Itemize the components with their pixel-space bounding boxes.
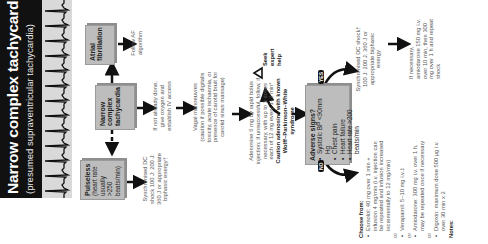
vagal-detail: (caution if possible digitalis toxicity,… xyxy=(199,72,225,143)
drug-option-amiodarone: Amiodarone: 300 mg i.v. over 1 h, may be… xyxy=(412,138,426,231)
adverse-sign-item: Systolic BP <90mm Hg xyxy=(316,89,331,154)
flowchart-page: Narrow complex tachycardia (presumed sup… xyxy=(0,0,488,244)
adverse-signs-title: Adverse signs? xyxy=(309,109,316,161)
pulseless-box: Pulseless (heart rate usually >250 beats… xyxy=(80,160,125,200)
oxygen-iv-note: If not already done, give oxygen and est… xyxy=(152,78,172,134)
choose-from-title: Choose from: xyxy=(358,200,364,238)
pulseless-shock-note: Synchronised DC shock 100 J: 200 J: 360 … xyxy=(142,150,169,208)
adenosine-text: Adenosine 6 mg by rapid bolus injection;… xyxy=(248,78,274,164)
atrial-fibrillation-box: Atrial fibrillation xyxy=(85,25,115,65)
seek-help-note: Seek expert help xyxy=(262,36,282,66)
or-separator: or xyxy=(406,138,413,238)
vagal-title: Vagal manoeuvres xyxy=(192,83,198,131)
drug-option-esmolol: Esmolol: 40 mg over 1 min + infusion 4 m… xyxy=(365,138,392,231)
drug-option-digoxin: Digoxin: maximum dose 500 µg i.v. over 3… xyxy=(433,138,447,231)
no-badge: NO xyxy=(318,161,324,173)
adenosine-note: Adenosine 6 mg by rapid bolus injection;… xyxy=(248,76,296,166)
adverse-signs-box: Adverse signs? Systolic BP <90mm Hg Ches… xyxy=(305,85,350,165)
narrow-complex-box: Narrow complex tachycardia xyxy=(95,85,135,130)
drug-option-verapamil: Verapamil: 5–10 mg i.v.‡ xyxy=(399,138,406,231)
adverse-sign-item: Heart failure xyxy=(339,89,346,154)
choose-from-list: Choose from: Esmolol: 40 mg over 1 min +… xyxy=(358,138,455,238)
adverse-sign-item: Chest pain xyxy=(331,89,338,154)
or-separator: or xyxy=(392,138,399,238)
yes-badge: YES xyxy=(318,70,324,84)
pulseless-label: Pulseless xyxy=(84,164,91,196)
adenosine-caution: Caution adenosine with known Wolff–Parki… xyxy=(275,78,295,163)
vagal-note: Vagal manoeuvres (caution if possible di… xyxy=(192,64,226,150)
pulseless-detail: (heart rate usually >250 beats/min) xyxy=(91,166,120,196)
notes-label: Notes: xyxy=(448,138,455,238)
yes-shock-note: Synchronised DC shock† 100 J: 200 J: 360… xyxy=(355,24,382,94)
or-separator: or xyxy=(426,138,433,238)
atrial-fibrillation-label: Atrial fibrillation xyxy=(89,27,103,61)
amiodarone-repeat-note: If necessary, amiodarone 150 mg i.v. ove… xyxy=(408,17,442,79)
narrow-complex-label: Narrow complex tachycardia xyxy=(99,87,121,126)
follow-af-note: Follow AF algorithm xyxy=(130,18,144,68)
